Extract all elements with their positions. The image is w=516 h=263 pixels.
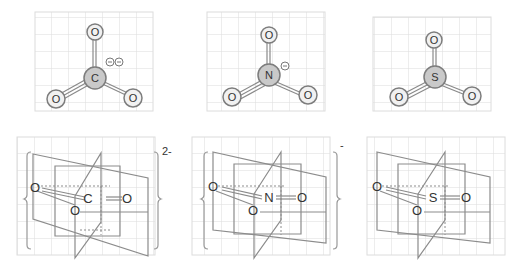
oxygen-label: O bbox=[70, 203, 80, 218]
oxygen-label: O bbox=[30, 180, 40, 195]
oxygen-label: O bbox=[228, 91, 237, 103]
central-atom-label: S bbox=[431, 71, 438, 83]
oxygen-label: O bbox=[372, 179, 382, 194]
nitrate-ball-stick: O O O N bbox=[207, 12, 325, 111]
oxygen-label: O bbox=[297, 190, 307, 205]
oxygen-label: O bbox=[52, 93, 61, 105]
diagram-canvas: O O O C O O O N bbox=[0, 0, 516, 263]
central-atom-label: C bbox=[83, 191, 92, 206]
oxygen-label: O bbox=[304, 89, 313, 101]
oxygen-label: O bbox=[468, 90, 477, 102]
carbonate-3d-planes: 2- O C O O bbox=[17, 137, 172, 258]
central-atom-label: N bbox=[265, 69, 273, 81]
so3-3d-planes: O S O O bbox=[367, 137, 505, 258]
overall-charge: - bbox=[340, 139, 344, 151]
right-bracket bbox=[333, 152, 340, 249]
so3-ball-stick: O O O S bbox=[373, 17, 491, 111]
oxygen-label: O bbox=[265, 29, 274, 41]
oxygen-label: O bbox=[129, 92, 138, 104]
central-atom-label: S bbox=[429, 190, 438, 205]
nitrate-3d-planes: - O N O O bbox=[192, 137, 344, 258]
oxygen-label: O bbox=[122, 191, 132, 206]
oxygen-label: O bbox=[91, 26, 100, 38]
oxygen-label: O bbox=[395, 91, 404, 103]
oxygen-label: O bbox=[461, 190, 471, 205]
oxygen-label: O bbox=[248, 203, 258, 218]
oxygen-label: O bbox=[412, 203, 422, 218]
oxygen-label: O bbox=[208, 179, 218, 194]
carbonate-ball-stick: O O O C bbox=[35, 12, 153, 111]
central-atom-label: N bbox=[264, 190, 273, 205]
overall-charge: 2- bbox=[162, 145, 172, 157]
oxygen-label: O bbox=[430, 34, 439, 46]
central-atom-label: C bbox=[91, 72, 99, 84]
